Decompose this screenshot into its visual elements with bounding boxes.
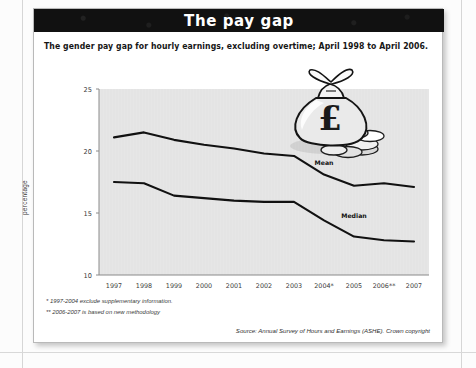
- chart-source-line: Source: Annual Survey of Hours and Earni…: [236, 327, 430, 334]
- pay-gap-line-chart: 10152025 1997199819992000200120022003200…: [34, 65, 444, 295]
- x-tick-label: 2004*: [314, 282, 333, 290]
- x-tick-label: 2006**: [373, 282, 396, 290]
- page-frame-right-rule: [461, 0, 462, 368]
- screenshot-page: The pay gap The gender pay gap for hourl…: [0, 0, 476, 368]
- x-axis-tick-labels: 19971998199920002001200220032004*2005200…: [106, 282, 422, 290]
- x-tick-label: 2005: [346, 282, 362, 290]
- pay-gap-chart-card: The pay gap The gender pay gap for hourl…: [33, 8, 443, 343]
- series-label-mean: Mean: [315, 159, 334, 166]
- chart-title-bar: The pay gap: [34, 9, 444, 32]
- page-title: The pay gap: [184, 12, 294, 30]
- series-label-median: Median: [341, 212, 366, 219]
- y-axis-tick-labels: 10152025: [84, 86, 99, 280]
- x-tick-label: 1998: [136, 282, 152, 290]
- x-tick-label: 2003: [286, 282, 302, 290]
- x-tick-label: 1997: [106, 282, 122, 290]
- x-tick-label: 1999: [166, 282, 182, 290]
- y-axis-title: percentage: [21, 180, 28, 215]
- x-tick-label: 2001: [226, 282, 242, 290]
- footnote-asterisk-one: * 1997-2004 exclude supplementary inform…: [46, 296, 173, 307]
- x-tick-label: 2007: [406, 282, 422, 290]
- footnote-asterisk-two: ** 2006-2007 is based on new methodology: [46, 307, 173, 318]
- y-tick-label: 10: [84, 272, 92, 280]
- chart-subtitle: The gender pay gap for hourly earnings, …: [44, 41, 436, 51]
- page-frame-bottom-rule: [0, 352, 476, 353]
- y-tick-label: 20: [84, 148, 92, 156]
- y-tick-label: 25: [84, 86, 92, 94]
- y-tick-label: 15: [84, 210, 92, 218]
- money-bag-ruffle: [309, 69, 353, 84]
- chart-footnotes: * 1997-2004 exclude supplementary inform…: [46, 296, 173, 318]
- x-tick-label: 2000: [196, 282, 212, 290]
- x-tick-label: 2002: [256, 282, 272, 290]
- chart-plot-container: percentage 10152025 19971998199920002001…: [34, 65, 444, 295]
- pound-symbol: £: [318, 98, 342, 138]
